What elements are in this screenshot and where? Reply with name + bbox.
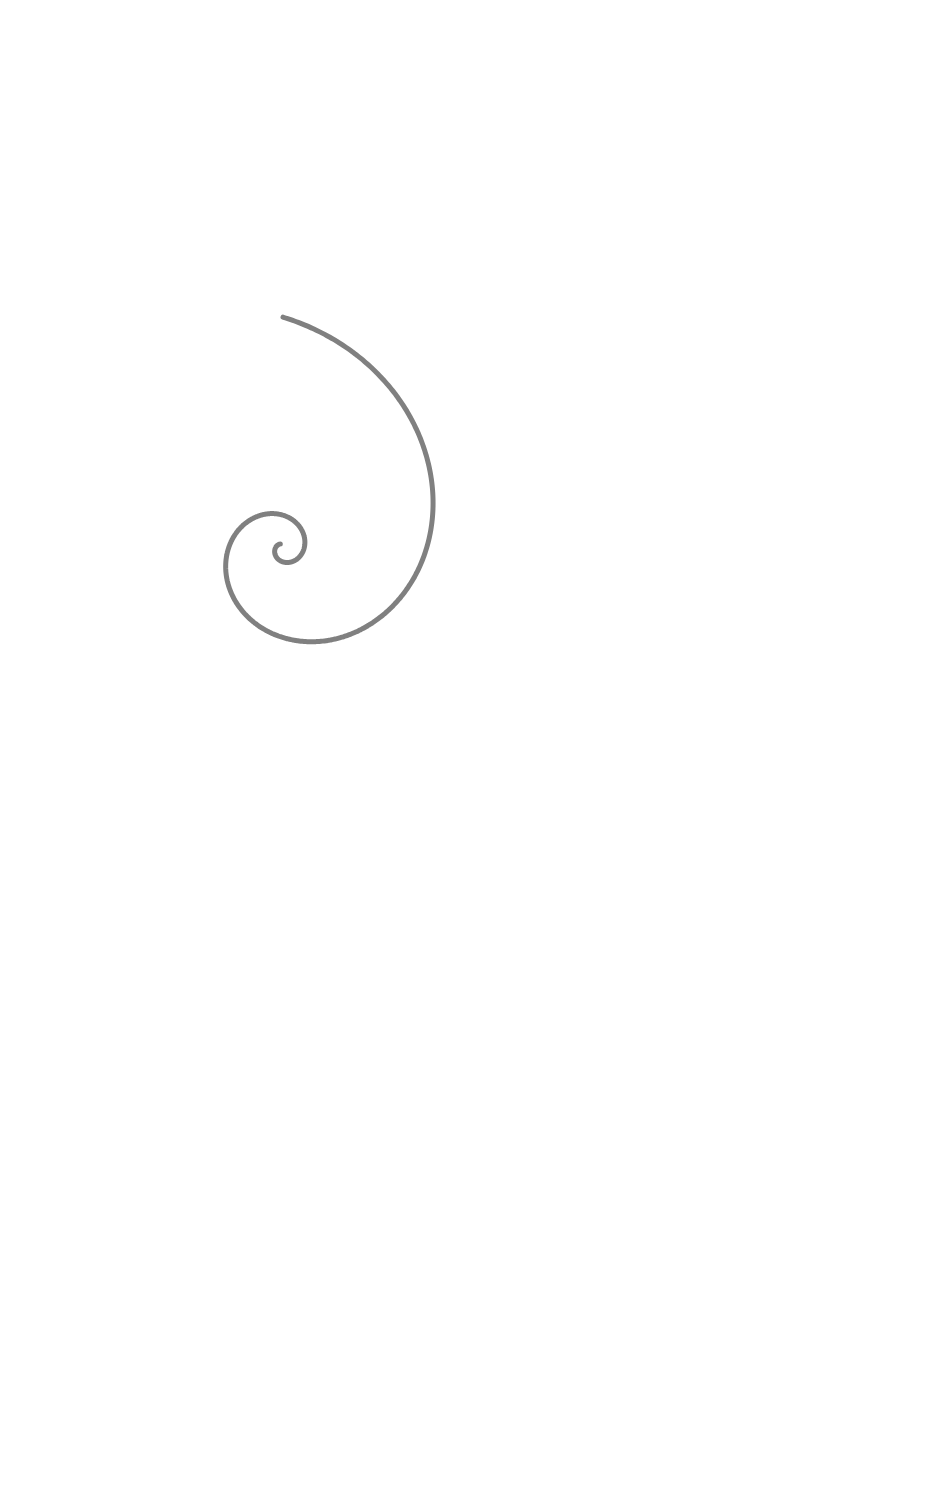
figure-canvas [0, 0, 948, 1497]
canvas-background [0, 0, 948, 1497]
spiral-svg [0, 0, 948, 1497]
